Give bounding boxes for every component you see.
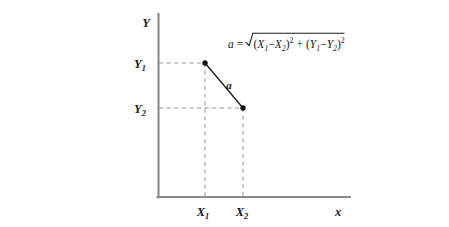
formula-lhs-var: a bbox=[228, 38, 234, 50]
distance-segment bbox=[205, 63, 243, 108]
y-axis-label: Y bbox=[142, 16, 151, 30]
data-point-p1 bbox=[202, 60, 207, 65]
x-tick-1-sub: 1 bbox=[205, 212, 209, 221]
coordinate-plane-diagram: Y x Y1 Y2 X1 X2 a a= (X1−X2)2+(Y1−Y2)2 bbox=[0, 0, 449, 227]
y-tick-2-sub: 2 bbox=[141, 109, 146, 118]
y-tick-1-sub: 1 bbox=[142, 64, 146, 73]
formula-plus: + bbox=[296, 38, 303, 50]
x-axis-label: x bbox=[334, 205, 341, 219]
formula-body: (X1−X2)2+(Y1−Y2)2 bbox=[254, 36, 345, 53]
formula-lhs: a= bbox=[228, 38, 243, 50]
formula-t2-power: 2 bbox=[341, 36, 345, 45]
segment-label: a bbox=[226, 79, 232, 91]
formula-equals: = bbox=[237, 38, 244, 50]
formula-t1-power: 2 bbox=[290, 36, 294, 45]
x-tick-label-2: X2 bbox=[235, 205, 249, 221]
y-tick-label-2: Y2 bbox=[134, 102, 146, 118]
x-tick-label-1: X1 bbox=[196, 205, 210, 221]
distance-formula-figure: Y x Y1 Y2 X1 X2 a a= (X1−X2)2+(Y1−Y2)2 bbox=[0, 0, 449, 227]
distance-formula-annotation: a= (X1−X2)2+(Y1−Y2)2 bbox=[228, 33, 345, 53]
x-tick-2-sub: 2 bbox=[243, 212, 248, 221]
y-tick-label-1: Y1 bbox=[134, 57, 146, 73]
data-point-p2 bbox=[240, 105, 245, 110]
